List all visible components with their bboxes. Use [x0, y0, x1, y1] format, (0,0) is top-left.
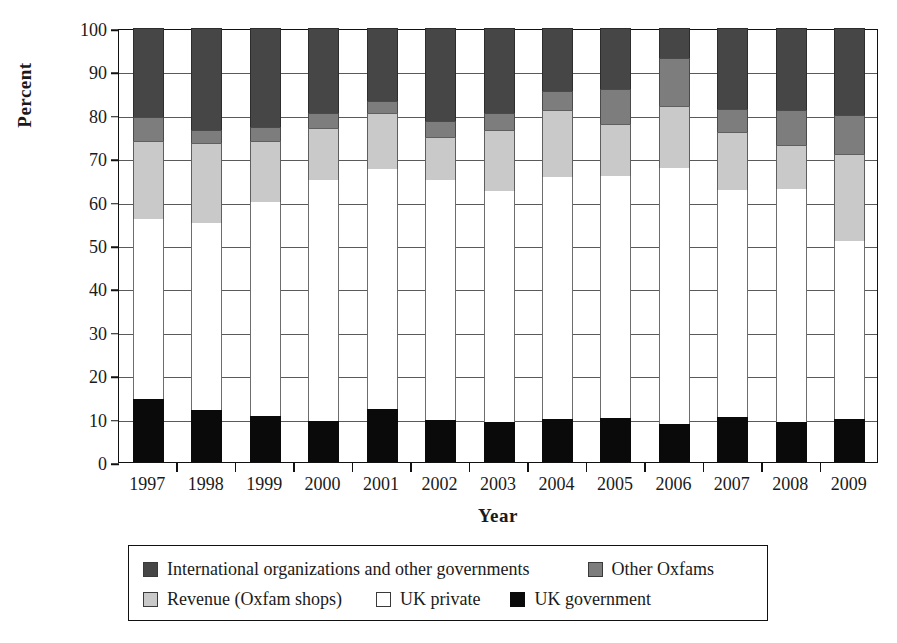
legend-item-gov[interactable]: UK government	[510, 590, 650, 608]
legend-item-intl[interactable]: International organizations and other go…	[143, 560, 530, 578]
bar-2001[interactable]	[367, 28, 398, 462]
bar-segment-gov	[191, 410, 222, 462]
x-tick-label-2002: 2002	[422, 474, 458, 495]
y-tick-label: 90	[89, 63, 107, 84]
bar-segment-intl	[542, 28, 573, 91]
legend-label-priv: UK private	[400, 590, 480, 608]
bar-segment-intl	[717, 28, 748, 109]
bar-segment-intl	[834, 28, 865, 115]
bar-segment-shops	[659, 106, 690, 168]
y-tick-label: 30	[89, 323, 107, 344]
y-tick-label: 50	[89, 237, 107, 258]
y-tick-label: 80	[89, 106, 107, 127]
x-tick-label-2007: 2007	[714, 474, 750, 495]
x-tick-mark	[527, 463, 529, 472]
y-tick-label: 70	[89, 150, 107, 171]
bar-segment-priv	[717, 190, 748, 417]
x-tick-mark	[235, 463, 237, 472]
bar-segment-other	[484, 113, 515, 130]
bar-segment-intl	[250, 28, 281, 127]
x-tick-mark	[703, 463, 705, 472]
bar-2002[interactable]	[425, 28, 456, 462]
bar-segment-gov	[659, 424, 690, 462]
y-tick-label: 40	[89, 280, 107, 301]
bar-segment-gov	[776, 422, 807, 462]
bar-segment-gov	[308, 421, 339, 462]
bar-segment-shops	[308, 128, 339, 180]
legend-label-other: Other Oxfams	[612, 560, 714, 578]
bar-segment-shops	[484, 130, 515, 191]
bar-1999[interactable]	[250, 28, 281, 462]
x-tick-label-1998: 1998	[188, 474, 224, 495]
bar-segment-gov	[484, 422, 515, 462]
bar-segment-intl	[191, 28, 222, 130]
legend-item-priv[interactable]: UK private	[376, 590, 480, 608]
y-tick-label: 100	[80, 20, 107, 41]
y-tick-mark	[111, 116, 119, 118]
y-tick-mark	[111, 246, 119, 248]
x-tick-mark	[410, 463, 412, 472]
legend-label-intl: International organizations and other go…	[167, 560, 530, 578]
bar-segment-intl	[367, 28, 398, 100]
bar-segment-priv	[542, 177, 573, 418]
legend-row-1: International organizations and other go…	[143, 554, 753, 584]
bar-segment-priv	[191, 223, 222, 410]
bar-segment-gov	[367, 409, 398, 462]
bar-segment-priv	[776, 189, 807, 422]
x-tick-label-1999: 1999	[246, 474, 282, 495]
x-tick-label-2006: 2006	[655, 474, 691, 495]
x-tick-mark	[644, 463, 646, 472]
bar-segment-priv	[133, 219, 164, 399]
bar-2004[interactable]	[542, 28, 573, 462]
x-tick-mark	[352, 463, 354, 472]
bar-2007[interactable]	[717, 28, 748, 462]
bar-segment-priv	[425, 180, 456, 420]
legend-item-shops[interactable]: Revenue (Oxfam shops)	[143, 590, 342, 608]
bar-segment-priv	[308, 180, 339, 421]
legend-item-other[interactable]: Other Oxfams	[588, 560, 714, 578]
y-tick-mark	[111, 290, 119, 292]
y-tick-label: 60	[89, 193, 107, 214]
bar-segment-intl	[484, 28, 515, 113]
legend-swatch-icon-other	[588, 562, 603, 577]
bar-segment-gov	[542, 419, 573, 462]
bar-2009[interactable]	[834, 28, 865, 462]
bar-segment-shops	[542, 110, 573, 177]
bar-2006[interactable]	[659, 28, 690, 462]
x-tick-label-2008: 2008	[772, 474, 808, 495]
legend-swatch-icon-shops	[143, 592, 158, 607]
legend-row-2: Revenue (Oxfam shops) UK private UK gove…	[143, 584, 753, 614]
bar-segment-other	[834, 115, 865, 154]
bar-segment-intl	[659, 28, 690, 58]
y-tick-mark	[111, 203, 119, 205]
bar-1997[interactable]	[133, 28, 164, 462]
bar-segment-intl	[133, 28, 164, 117]
bar-2005[interactable]	[600, 28, 631, 462]
bar-segment-shops	[834, 154, 865, 241]
bar-segment-gov	[600, 418, 631, 462]
bar-2008[interactable]	[776, 28, 807, 462]
y-tick-label: 0	[98, 454, 107, 475]
y-tick-label: 20	[89, 367, 107, 388]
x-tick-label-2003: 2003	[480, 474, 516, 495]
bar-segment-gov	[717, 417, 748, 462]
x-tick-label-2009: 2009	[831, 474, 867, 495]
bar-segment-shops	[717, 132, 748, 190]
x-tick-mark	[761, 463, 763, 472]
x-tick-mark	[820, 463, 822, 472]
bar-segment-other	[133, 117, 164, 141]
bar-segment-intl	[776, 28, 807, 110]
bar-2003[interactable]	[484, 28, 515, 462]
bar-1998[interactable]	[191, 28, 222, 462]
x-tick-mark	[293, 463, 295, 472]
bar-segment-priv	[659, 168, 690, 424]
x-axis-ticks	[118, 463, 878, 473]
bar-segment-shops	[133, 141, 164, 219]
bar-segment-other	[542, 91, 573, 111]
bar-segment-intl	[425, 28, 456, 121]
bar-segment-other	[776, 110, 807, 145]
bar-2000[interactable]	[308, 28, 339, 462]
bar-segment-gov	[250, 416, 281, 462]
bar-segment-other	[659, 58, 690, 106]
x-tick-label-2001: 2001	[363, 474, 399, 495]
